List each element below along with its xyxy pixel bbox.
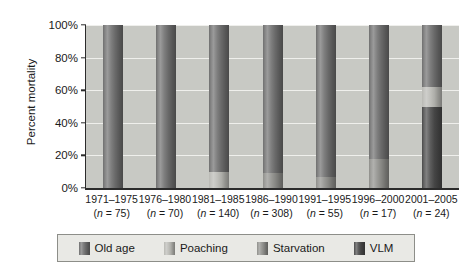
bar-group[interactable]	[156, 25, 176, 188]
y-axis-tick-label: 80%	[30, 52, 86, 64]
bar-group[interactable]	[209, 25, 229, 188]
bar-segment-old-age[interactable]	[103, 25, 123, 188]
x-axis-labels: 1971–1975(n = 75)1976–1980(n = 70)1981–1…	[0, 192, 472, 228]
bar-group[interactable]	[369, 25, 389, 188]
stacked-bar[interactable]	[156, 25, 176, 188]
x-axis-label-period: 1991–1995	[299, 193, 352, 205]
stacked-bar[interactable]	[369, 25, 389, 188]
legend-swatch-shading	[164, 242, 175, 255]
bar-segment-poaching[interactable]	[209, 172, 229, 188]
bar-segment-old-age[interactable]	[209, 25, 229, 172]
legend-swatch-icon	[164, 242, 175, 255]
x-axis-label-sample-size: (n = 140)	[192, 206, 245, 220]
legend-label: Old age	[95, 242, 135, 254]
x-axis-label: 1981–1985(n = 140)	[192, 192, 245, 220]
x-axis-label: 2001–2005(n = 24)	[405, 192, 458, 220]
legend-swatch-icon	[354, 242, 365, 255]
x-axis-label-sample-size: (n = 70)	[138, 206, 191, 220]
x-axis-label-period: 1996–2000	[352, 193, 405, 205]
y-axis-title: Percent mortality	[25, 17, 37, 187]
x-axis-line	[85, 188, 459, 190]
legend-swatch-shading	[354, 242, 365, 255]
x-axis-label-period: 1971–1975	[85, 193, 138, 205]
plot-area: 0%20%40%60%80%100%	[85, 25, 459, 188]
legend-label: Poaching	[180, 242, 228, 254]
bars-layer	[86, 25, 459, 188]
bar-segment-old-age[interactable]	[263, 25, 283, 173]
bar-segment-old-age[interactable]	[369, 25, 389, 159]
bar-group[interactable]	[316, 25, 336, 188]
x-axis-label: 1976–1980(n = 70)	[138, 192, 191, 220]
legend-item-old-age[interactable]: Old age	[79, 242, 135, 255]
bar-segment-old-age[interactable]	[156, 25, 176, 188]
x-axis-label: 1971–1975(n = 75)	[85, 192, 138, 220]
x-axis-label-sample-size: (n = 308)	[245, 206, 298, 220]
x-axis-label-sample-size: (n = 17)	[351, 206, 404, 220]
chart-legend: Old agePoachingStarvationVLM	[57, 234, 415, 262]
legend-item-starvation[interactable]: Starvation	[257, 242, 325, 255]
x-axis-label-sample-size: (n = 24)	[405, 206, 458, 220]
stacked-bar[interactable]	[103, 25, 123, 188]
legend-swatch-shading	[257, 242, 268, 255]
bar-segment-vlm[interactable]	[422, 107, 442, 189]
legend-label: VLM	[370, 242, 394, 254]
legend-item-poaching[interactable]: Poaching	[164, 242, 228, 255]
bar-segment-starvation[interactable]	[263, 173, 283, 188]
bar-segment-starvation[interactable]	[316, 177, 336, 188]
x-axis-label: 1986–1990(n = 308)	[245, 192, 298, 220]
x-axis-label-sample-size: (n = 75)	[85, 206, 138, 220]
x-axis-label-period: 1981–1985	[192, 193, 245, 205]
stacked-bar-chart: Percent mortality 0%20%40%60%80%100% 197…	[0, 0, 472, 277]
x-axis-label: 1996–2000(n = 17)	[351, 192, 404, 220]
legend-swatch-icon	[79, 242, 90, 255]
legend-item-vlm[interactable]: VLM	[354, 242, 394, 255]
bar-segment-poaching[interactable]	[422, 87, 442, 107]
x-axis-label-period: 1986–1990	[245, 193, 298, 205]
bar-group[interactable]	[103, 25, 123, 188]
y-axis-tick-label: 100%	[30, 19, 86, 31]
y-axis-tick-label: 40%	[30, 117, 86, 129]
stacked-bar[interactable]	[316, 25, 336, 188]
stacked-bar[interactable]	[263, 25, 283, 188]
bar-segment-starvation[interactable]	[369, 159, 389, 188]
y-axis-tick-label: 60%	[30, 84, 86, 96]
x-axis-label-period: 1976–1980	[139, 193, 192, 205]
bar-group[interactable]	[263, 25, 283, 188]
stacked-bar[interactable]	[209, 25, 229, 188]
legend-swatch-shading	[79, 242, 90, 255]
bar-segment-old-age[interactable]	[316, 25, 336, 177]
bar-group[interactable]	[422, 25, 442, 188]
legend-label: Starvation	[273, 242, 325, 254]
y-axis-tick-label: 20%	[30, 149, 86, 161]
x-axis-label: 1991–1995(n = 55)	[298, 192, 351, 220]
bar-segment-old-age[interactable]	[422, 25, 442, 87]
legend-swatch-icon	[257, 242, 268, 255]
stacked-bar[interactable]	[422, 25, 442, 188]
x-axis-label-period: 2001–2005	[405, 193, 458, 205]
x-axis-label-sample-size: (n = 55)	[298, 206, 351, 220]
